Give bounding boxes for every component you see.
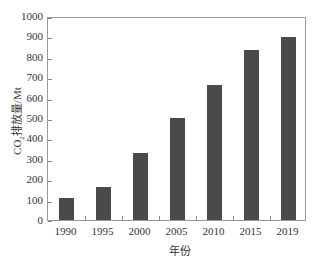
y-tick [48,181,52,182]
x-tick [122,216,123,220]
y-tick [48,120,52,121]
y-tick [48,202,52,203]
x-tick-label: 2000 [123,225,157,237]
x-tick-label: 2005 [160,225,194,237]
bar-2015 [244,50,259,220]
plot-area [47,17,306,221]
x-tick [196,216,197,220]
x-tick [85,216,86,220]
x-tick-label: 2015 [234,225,268,237]
y-tick-label: 1000 [21,11,43,22]
x-tick-label: 2010 [197,225,231,237]
y-tick-label: 300 [27,154,44,165]
y-tick [48,161,52,162]
y-tick [48,18,52,19]
y-axis-title: CO2排放量/Mt [8,66,26,176]
y-tick [48,59,52,60]
bar-1995 [96,187,111,220]
x-tick [233,216,234,220]
x-tick [159,216,160,220]
x-tick-label: 1995 [86,225,120,237]
y-tick-label: 700 [27,72,44,83]
y-tick [48,221,52,222]
y-tick [48,38,52,39]
y-tick-label: 900 [27,31,44,42]
x-axis-title: 年份 [150,242,210,258]
y-tick [48,140,52,141]
x-tick-label: 1990 [49,225,83,237]
x-tick [270,216,271,220]
y-tick [48,79,52,80]
y-tick [48,100,52,101]
bar-chart: CO2排放量/Mt 010020030040050060070080090010… [0,0,317,263]
y-tick-label: 200 [27,174,44,185]
bar-2000 [133,153,148,220]
x-tick-label: 2019 [271,225,305,237]
y-tick-label: 0 [38,215,44,226]
bar-2010 [207,85,222,220]
y-tick-label: 600 [27,93,44,104]
bar-1990 [59,198,74,220]
y-tick-label: 100 [27,195,44,206]
bar-2019 [281,37,296,220]
y-tick-label: 500 [27,113,44,124]
bar-2005 [170,118,185,220]
y-tick-label: 400 [27,133,44,144]
y-tick-label: 800 [27,52,44,63]
